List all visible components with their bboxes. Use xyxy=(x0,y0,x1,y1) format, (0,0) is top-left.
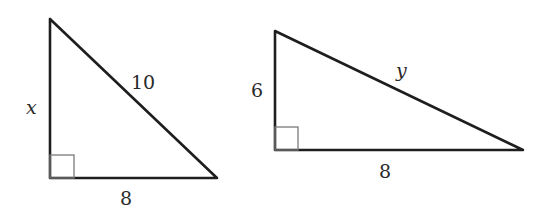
triangle-left-outline xyxy=(50,19,217,178)
triangle-left: x 10 8 xyxy=(26,19,217,209)
label-y-hypotenuse: y xyxy=(395,59,407,81)
label-x-vertical-leg: x xyxy=(26,96,37,118)
label-hypotenuse-10: 10 xyxy=(131,71,155,93)
right-angle-marker-right xyxy=(275,127,298,150)
triangle-right-outline xyxy=(275,31,523,150)
label-horizontal-leg-8-left: 8 xyxy=(120,187,132,209)
label-horizontal-leg-8-right: 8 xyxy=(379,160,391,182)
diagram-canvas: x 10 8 6 y 8 xyxy=(0,0,545,213)
right-angle-marker-left xyxy=(50,155,74,178)
triangle-right: 6 y 8 xyxy=(251,31,523,182)
label-vertical-leg-6: 6 xyxy=(251,79,263,101)
